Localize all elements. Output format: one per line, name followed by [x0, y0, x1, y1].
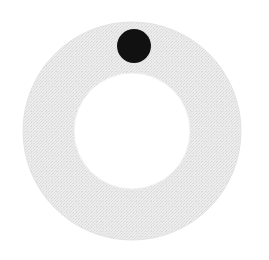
marker-dot [117, 29, 151, 63]
figure-svg [0, 0, 269, 260]
figure-canvas [0, 0, 269, 260]
